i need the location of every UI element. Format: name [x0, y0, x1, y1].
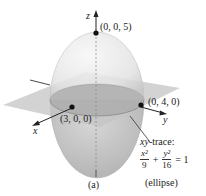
y-axis-label: y	[163, 115, 167, 125]
x-axis-label: x	[33, 126, 37, 136]
label-z-intercept: (0, 0, 5)	[100, 22, 132, 32]
trace-shape-label: (ellipse)	[145, 178, 178, 188]
fraction-y: y²16	[162, 149, 171, 170]
label-y-intercept: (0, 4, 0)	[148, 97, 180, 107]
trace-title: xy-trace:	[140, 137, 174, 147]
label-x-intercept: (3, 0, 0)	[60, 114, 92, 124]
z-axis-label: z	[86, 11, 90, 21]
y-axis	[141, 107, 163, 113]
x-axis-back	[30, 80, 50, 85]
point-x-intercept	[69, 104, 74, 109]
fraction-x: x²9	[140, 149, 149, 170]
point-z-intercept	[93, 30, 98, 35]
point-y-intercept	[138, 102, 143, 107]
z-axis-arrow	[94, 10, 99, 17]
panel-label: (a)	[88, 180, 99, 190]
trace-equation: x²9 + y²16 = 1	[140, 149, 188, 170]
